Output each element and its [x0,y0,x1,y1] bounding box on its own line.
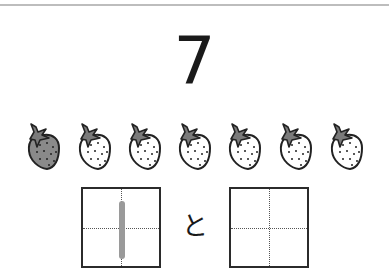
answer-box-left[interactable] [81,187,161,268]
strawberry-icon [277,121,315,171]
answer-box-right[interactable] [229,187,309,268]
target-number: 7 [0,26,389,98]
strawberry-icon [176,121,214,171]
connector-to: と [180,208,210,244]
horizontal-guide-line [231,228,307,229]
strawberry-icon [126,121,164,171]
strawberry-icon [328,121,366,171]
strawberry-icon [25,121,63,171]
strawberry-icon [226,121,264,171]
top-divider [0,4,389,6]
tracing-stroke-one [119,201,125,259]
strawberry-icon [76,121,114,171]
strawberry-counters [0,121,389,171]
